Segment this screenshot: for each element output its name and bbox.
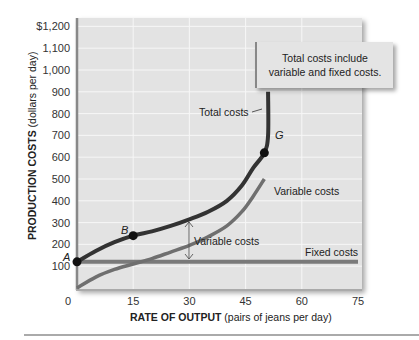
y-axis-title-bold: PRODUCTION COSTS <box>26 130 38 240</box>
y-tick-label: 900 <box>52 86 70 98</box>
y-tick-label: 800 <box>52 108 70 120</box>
x-tick-label: 75 <box>352 295 364 307</box>
point-a-label: A <box>62 251 70 263</box>
point-a-marker <box>73 257 82 266</box>
x-tick-label: 60 <box>296 295 308 307</box>
y-axis-title: PRODUCTION COSTS (dollars per day) <box>26 52 38 240</box>
y-tick-label: 500 <box>52 173 70 185</box>
total-costs-label: Total costs <box>199 106 249 118</box>
x-tick-label: 45 <box>239 295 251 307</box>
x-axis-title-bold: RATE OF OUTPUT <box>130 311 222 323</box>
annotation-line-2: variable and fixed costs. <box>257 65 393 79</box>
y-tick-label: 200 <box>52 238 70 250</box>
annotation-box: Total costs include variable and fixed c… <box>255 42 393 88</box>
y-tick-label: 400 <box>52 195 70 207</box>
x-tick-labels: 01530456075 <box>65 295 364 307</box>
point-g-marker <box>260 148 269 157</box>
point-g-label: G <box>275 129 284 141</box>
point-b-marker <box>129 231 138 240</box>
y-tick-label: 600 <box>52 151 70 163</box>
y-tick-labels: $1,2001,1001,000900800700600500400300200… <box>36 20 70 272</box>
x-axis-title: RATE OF OUTPUT (pairs of jeans per day) <box>130 311 332 323</box>
variable-costs-curve-label: Variable costs <box>274 185 339 197</box>
x-tick-label: 15 <box>127 295 139 307</box>
fixed-costs-label: Fixed costs <box>305 246 358 258</box>
y-tick-label: 300 <box>52 217 70 229</box>
y-tick-label: 700 <box>52 129 70 141</box>
y-tick-label: $1,200 <box>36 20 70 32</box>
x-tick-label: 30 <box>183 295 195 307</box>
y-tick-label: 1,100 <box>42 42 70 54</box>
footer-rule <box>24 334 419 336</box>
x-tick-label: 0 <box>65 295 71 307</box>
annotation-line-1: Total costs include <box>257 51 393 65</box>
y-tick-label: 1,000 <box>42 64 70 76</box>
variable-costs-gap-label: Variable costs <box>194 235 259 247</box>
y-axis-title-rest: (dollars per day) <box>26 52 38 131</box>
x-axis-title-rest: (pairs of jeans per day) <box>221 311 331 323</box>
point-b-label: B <box>121 224 128 236</box>
